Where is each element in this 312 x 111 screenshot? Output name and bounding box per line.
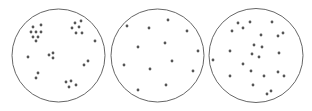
point bbox=[171, 60, 174, 63]
point bbox=[192, 70, 195, 73]
point bbox=[149, 68, 152, 71]
point bbox=[278, 52, 281, 55]
point bbox=[271, 21, 274, 24]
point bbox=[197, 50, 200, 53]
point bbox=[167, 19, 170, 22]
point bbox=[71, 27, 74, 30]
point bbox=[123, 64, 126, 67]
point bbox=[137, 46, 140, 49]
point bbox=[78, 26, 81, 29]
point bbox=[65, 81, 68, 84]
point bbox=[270, 90, 273, 93]
point bbox=[40, 24, 43, 27]
point bbox=[253, 44, 256, 47]
distribution-diagram bbox=[0, 0, 312, 111]
boundary-circle bbox=[209, 9, 303, 103]
point bbox=[27, 56, 30, 59]
point bbox=[126, 25, 129, 28]
point bbox=[250, 70, 253, 73]
point bbox=[186, 30, 189, 33]
panel-random bbox=[209, 9, 303, 103]
point bbox=[83, 64, 86, 67]
point bbox=[32, 36, 35, 39]
point bbox=[229, 50, 232, 53]
point bbox=[35, 31, 38, 34]
point bbox=[70, 80, 73, 83]
point bbox=[261, 46, 264, 49]
point bbox=[75, 84, 78, 87]
point bbox=[165, 84, 168, 87]
point bbox=[164, 42, 167, 45]
panel-uniform bbox=[111, 9, 204, 102]
point bbox=[212, 59, 215, 62]
point bbox=[35, 40, 38, 43]
point bbox=[74, 22, 77, 25]
point bbox=[283, 75, 286, 78]
point bbox=[80, 20, 83, 23]
point bbox=[229, 75, 232, 78]
point bbox=[81, 32, 84, 35]
point bbox=[258, 56, 261, 59]
point bbox=[94, 40, 97, 43]
point bbox=[237, 22, 240, 25]
point bbox=[40, 31, 43, 34]
point bbox=[231, 30, 234, 33]
point bbox=[48, 54, 51, 57]
point bbox=[32, 26, 35, 29]
point bbox=[137, 89, 140, 92]
point bbox=[252, 84, 255, 87]
point bbox=[87, 60, 90, 63]
panel-clustered bbox=[12, 9, 105, 102]
point bbox=[30, 31, 33, 34]
point bbox=[263, 75, 266, 78]
point bbox=[249, 21, 252, 24]
point bbox=[68, 86, 71, 89]
point bbox=[242, 27, 245, 30]
point bbox=[282, 32, 285, 35]
point bbox=[251, 53, 254, 56]
point bbox=[75, 32, 78, 35]
boundary-circle bbox=[111, 9, 204, 102]
point bbox=[277, 35, 280, 38]
point bbox=[242, 63, 245, 66]
point bbox=[148, 27, 151, 30]
point bbox=[37, 72, 40, 75]
boundary-circle bbox=[12, 9, 105, 102]
point bbox=[266, 93, 269, 96]
point bbox=[37, 36, 40, 39]
point bbox=[35, 77, 38, 80]
point bbox=[52, 52, 55, 55]
point bbox=[260, 34, 263, 37]
point bbox=[52, 57, 55, 60]
point bbox=[277, 71, 280, 74]
